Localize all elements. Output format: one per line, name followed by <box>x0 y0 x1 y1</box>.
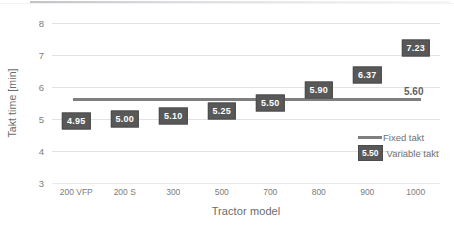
chart-legend: Fixed takt 5.50 Variable takt <box>358 129 439 161</box>
gridline-3 <box>52 183 440 184</box>
y-axis-title: Takt time [min] <box>6 23 20 183</box>
data-label-900[interactable]: 6.37 <box>353 67 381 84</box>
y-axis-tick-4: 4 <box>39 146 44 157</box>
gridline-8 <box>52 23 440 24</box>
x-axis-tick-300: 300 <box>166 187 180 197</box>
legend-label-fixed-takt: Fixed takt <box>383 132 424 143</box>
x-axis-tick-200-s: 200 S <box>114 187 136 197</box>
top-edge-artifact-secondary <box>0 3 454 4</box>
y-axis-tick-3: 3 <box>39 178 44 189</box>
data-label-200-s[interactable]: 5.00 <box>111 111 139 128</box>
legend-item-variable-takt[interactable]: 5.50 Variable takt <box>358 145 439 161</box>
x-axis-tick-500: 500 <box>215 187 229 197</box>
data-label-500[interactable]: 5.25 <box>208 103 236 120</box>
x-axis-tick-200-vfp: 200 VFP <box>60 187 93 197</box>
fixed-takt-value-label: 5.60 <box>404 86 423 97</box>
legend-label-variable-takt: Variable takt <box>387 148 439 159</box>
legend-item-fixed-takt[interactable]: Fixed takt <box>358 129 439 145</box>
x-axis-tick-800: 800 <box>312 187 326 197</box>
y-axis-tick-8: 8 <box>39 18 44 29</box>
x-axis-tick-1000: 1000 <box>406 187 425 197</box>
data-label-1000[interactable]: 7.23 <box>402 39 430 56</box>
y-axis-tick-5: 5 <box>39 114 44 125</box>
data-label-300[interactable]: 5.10 <box>159 107 187 124</box>
legend-line-swatch-icon <box>358 136 382 139</box>
data-label-200-vfp[interactable]: 4.95 <box>62 112 90 129</box>
x-axis-tick-900: 900 <box>360 187 374 197</box>
data-label-800[interactable]: 5.90 <box>305 82 333 99</box>
y-axis-tick-6: 6 <box>39 82 44 93</box>
y-axis-tick-7: 7 <box>39 50 44 61</box>
x-axis-tick-700: 700 <box>263 187 277 197</box>
gridline-6 <box>52 87 440 88</box>
gridline-7 <box>52 55 440 56</box>
legend-box-swatch-icon: 5.50 <box>358 145 383 162</box>
x-axis-title: Tractor model <box>52 205 440 217</box>
fixed-takt-line[interactable] <box>73 98 421 101</box>
chart-container: Takt time [min] 3456785.604.955.005.105.… <box>0 0 454 230</box>
data-label-700[interactable]: 5.50 <box>256 95 284 112</box>
